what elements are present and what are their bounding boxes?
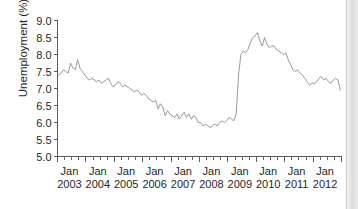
x-axis-year-label: 2008 <box>199 178 223 190</box>
y-axis-tick-label: 8.0 <box>36 49 51 61</box>
x-axis-year-label: 2010 <box>256 178 280 190</box>
x-axis-month-label: Jan <box>61 165 79 177</box>
x-axis-year-label: 2011 <box>285 178 309 190</box>
x-axis-year-label: 2009 <box>228 178 252 190</box>
x-axis-tick-group <box>58 157 342 162</box>
x-axis-year-label: 2007 <box>171 178 195 190</box>
y-axis-tick-group: 9.08.58.07.57.06.56.05.55.0 <box>36 15 57 163</box>
x-axis-month-label: Jan <box>259 165 277 177</box>
y-axis-tick-label: 6.5 <box>36 100 51 112</box>
x-axis-year-label: 2006 <box>142 178 166 190</box>
y-axis-tick-label: 5.0 <box>36 151 51 163</box>
y-axis-tick-label: 7.5 <box>36 66 51 78</box>
y-axis-tick-label: 6.0 <box>36 117 51 129</box>
x-axis-month-label: Jan <box>231 165 249 177</box>
x-axis-month-label: Jan <box>146 165 164 177</box>
y-axis-tick-label: 8.5 <box>36 32 51 44</box>
x-axis-month-label: Jan <box>316 165 334 177</box>
x-axis-year-label: 2005 <box>114 178 138 190</box>
y-axis-tick-label: 5.5 <box>36 134 51 146</box>
x-axis-month-label: Jan <box>89 165 107 177</box>
x-axis-year-label: 2012 <box>313 178 337 190</box>
y-axis-tick-label: 9.0 <box>36 15 51 27</box>
x-axis-year-label: 2003 <box>57 178 81 190</box>
y-axis-tick-label: 7.0 <box>36 83 51 95</box>
chart-figure: Unemployment (%) 9.08.58.07.57.06.56.05.… <box>0 0 358 209</box>
unemployment-line-chart: 9.08.58.07.57.06.56.05.55.0 Jan2003Jan20… <box>0 0 358 209</box>
x-axis-month-label: Jan <box>288 165 306 177</box>
x-axis-month-label: Jan <box>117 165 135 177</box>
x-axis-year-label: 2004 <box>86 178 110 190</box>
x-axis-month-label: Jan <box>174 165 192 177</box>
page-edge-line <box>346 0 347 209</box>
x-axis-label-group: Jan2003Jan2004Jan2005Jan2006Jan2007Jan20… <box>57 165 337 190</box>
x-axis-month-label: Jan <box>203 165 221 177</box>
unemployment-series-line <box>59 32 341 127</box>
